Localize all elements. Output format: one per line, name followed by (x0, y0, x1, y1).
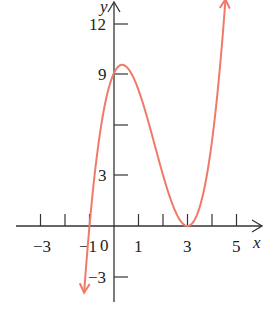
x-axis-label: x (252, 233, 261, 252)
origin-label: 0 (100, 236, 109, 255)
y-tick-label-m3: −3 (88, 268, 106, 287)
y-tick-label-3: 3 (98, 166, 107, 185)
y-tick-label-12: 12 (89, 15, 106, 34)
x-tick-label-5: 5 (232, 237, 241, 256)
y-tick-label-9: 9 (98, 65, 107, 84)
y-axis-label: y (98, 0, 108, 16)
cubic-graph: −3 −1 0 1 3 5 x 12 9 3 −3 y (0, 0, 277, 315)
x-tick-label-3: 3 (183, 237, 192, 256)
x-ticks (41, 214, 237, 226)
x-tick-label-1: 1 (134, 237, 143, 256)
x-tick-label-m3: −3 (33, 237, 51, 256)
y-ticks (114, 24, 128, 277)
